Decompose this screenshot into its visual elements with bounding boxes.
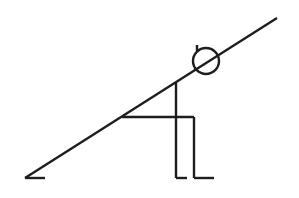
incline-line	[25, 18, 277, 178]
head-circle	[193, 48, 219, 74]
stick-figure-diagram	[0, 0, 299, 198]
